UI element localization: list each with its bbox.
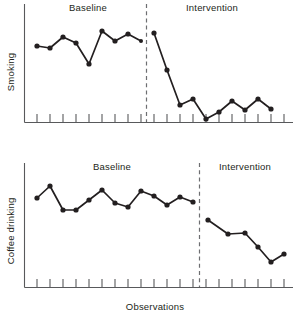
coffee-data-point (225, 231, 230, 236)
coffee-y-axis-label: Coffee drinking (5, 198, 16, 265)
smoking-data-point (229, 98, 234, 103)
coffee-data-point (164, 202, 169, 207)
smoking-data-point (268, 106, 273, 111)
smoking-baseline-line (37, 31, 141, 64)
coffee-data-point (151, 193, 156, 198)
coffee-data-point (205, 217, 210, 222)
coffee-data-point (138, 188, 143, 193)
smoking-data-point (34, 43, 39, 48)
coffee-data-point (73, 207, 78, 212)
smoking-intervention-line (154, 33, 271, 119)
smoking-x-ticks (37, 114, 284, 123)
coffee-baseline-label: Baseline (93, 161, 131, 172)
coffee-series-baseline (34, 183, 195, 212)
panel-smoking: Smoking Baseline Intervention (0, 0, 300, 140)
smoking-data-point (73, 40, 78, 45)
coffee-intervention-label: Intervention (219, 161, 271, 172)
coffee-data-point (268, 259, 273, 264)
smoking-data-point (190, 96, 195, 101)
smoking-baseline-label: Baseline (69, 2, 107, 13)
coffee-x-axis-label: Observations (126, 301, 184, 312)
smoking-data-point (86, 61, 91, 66)
coffee-baseline-line (37, 186, 193, 210)
coffee-data-point (177, 194, 182, 199)
coffee-data-point (112, 200, 117, 205)
smoking-intervention-label: Intervention (186, 2, 238, 13)
coffee-data-point (99, 187, 104, 192)
coffee-data-point (86, 197, 91, 202)
coffee-intervention-line (208, 220, 284, 262)
coffee-x-ticks (37, 279, 284, 288)
smoking-data-point (216, 109, 221, 114)
smoking-data-point (112, 38, 117, 43)
coffee-series-intervention (205, 217, 286, 264)
coffee-chart-svg: Coffee drinking Baseline Intervention (0, 155, 300, 317)
coffee-data-point (281, 251, 286, 256)
smoking-chart-svg: Smoking Baseline Intervention (0, 0, 300, 140)
smoking-data-point (203, 116, 208, 121)
smoking-data-point (164, 67, 169, 72)
smoking-series-intervention (151, 30, 273, 121)
smoking-data-point (255, 96, 260, 101)
two-panel-ab-design-figure: Smoking Baseline Intervention (0, 0, 300, 317)
smoking-series-baseline (34, 28, 143, 66)
smoking-y-axis-label: Smoking (5, 53, 16, 91)
panel-coffee-drinking: Coffee drinking Baseline Intervention (0, 155, 300, 317)
coffee-data-point (242, 230, 247, 235)
smoking-data-point (99, 28, 104, 33)
smoking-data-point (151, 30, 156, 35)
smoking-data-point (125, 31, 130, 36)
smoking-data-point (242, 107, 247, 112)
coffee-data-point (125, 204, 130, 209)
coffee-data-point (60, 207, 65, 212)
coffee-data-point (190, 199, 195, 204)
smoking-data-point (60, 34, 65, 39)
coffee-data-point (47, 183, 52, 188)
smoking-data-point (139, 39, 143, 43)
coffee-data-point (255, 244, 260, 249)
coffee-data-point (34, 195, 39, 200)
smoking-data-point (47, 45, 52, 50)
smoking-data-point (177, 102, 182, 107)
